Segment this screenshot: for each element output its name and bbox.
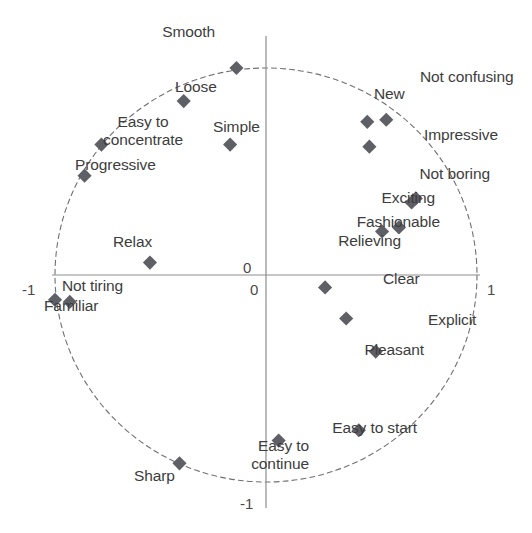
y-axis-zero-tick-label: 0 bbox=[250, 281, 258, 298]
point-label-new: New bbox=[374, 85, 405, 102]
data-point-marker bbox=[318, 280, 332, 294]
point-label-familiar: Familiar bbox=[44, 297, 98, 314]
data-point-marker bbox=[143, 256, 157, 270]
data-point-marker bbox=[360, 115, 374, 129]
point-label-explicit: Explicit bbox=[428, 311, 476, 328]
point-label-loose: Loose bbox=[175, 78, 217, 95]
data-point-marker bbox=[379, 113, 393, 127]
point-label-easy-to-continue-line1: Easy to bbox=[199, 437, 309, 454]
point-label-not-confusing: Not confusing bbox=[420, 68, 513, 85]
point-label-not-boring: Not boring bbox=[330, 165, 490, 182]
point-label-sharp: Sharp bbox=[134, 467, 175, 484]
x-axis-zero-tick-label: 0 bbox=[243, 259, 251, 276]
point-label-easy-to-continue-line2: continue bbox=[199, 455, 309, 472]
point-label-progressive: Progressive bbox=[75, 156, 156, 173]
point-label-fashionable: Fashionable bbox=[310, 213, 440, 230]
point-label-relieving: Relieving bbox=[291, 232, 401, 249]
data-point-marker bbox=[177, 94, 191, 108]
data-point-marker bbox=[223, 138, 237, 152]
x-axis-min-tick-label: -1 bbox=[22, 281, 35, 298]
point-label-easy-to-concentrate-line1: Easy to bbox=[88, 113, 198, 130]
point-label-simple: Simple bbox=[213, 118, 260, 135]
point-label-not-tiring: Not tiring bbox=[62, 277, 123, 294]
x-axis-max-tick-label: 1 bbox=[487, 281, 495, 298]
point-label-easy-to-concentrate-line2: concentrate bbox=[88, 131, 198, 148]
data-point-marker bbox=[339, 311, 353, 325]
point-label-pleasant: Pleasant bbox=[314, 341, 424, 358]
circular-correlation-plot: 0 0 -1 1 -1 Smooth Loose Easy to concent… bbox=[0, 0, 532, 533]
point-label-smooth: Smooth bbox=[100, 23, 215, 40]
data-point-marker bbox=[229, 61, 243, 75]
point-label-easy-to-start: Easy to start bbox=[277, 419, 417, 436]
point-label-clear: Clear bbox=[383, 270, 420, 287]
point-label-exciting: Exciting bbox=[335, 189, 435, 206]
data-point-marker bbox=[362, 140, 376, 154]
point-label-relax: Relax bbox=[113, 233, 152, 250]
y-axis-min-tick-label: -1 bbox=[240, 495, 253, 512]
point-label-impressive: Impressive bbox=[424, 126, 498, 143]
